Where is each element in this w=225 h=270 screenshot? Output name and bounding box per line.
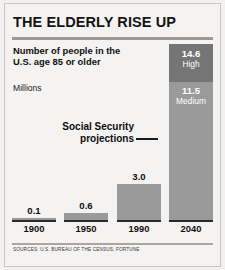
bar-1950: [64, 213, 108, 220]
x-axis: 1900 1950 1990 2040: [12, 220, 213, 242]
chart-title: THE ELDERLY RISE UP: [13, 14, 176, 30]
bar-value-1990: 3.0: [117, 171, 161, 182]
x-tick-rule-1900: [12, 220, 56, 222]
x-tick-rule-1950: [64, 220, 108, 222]
source-note: SOURCES: U.S. BUREAU OF THE CENSUS; FORT…: [13, 247, 140, 252]
x-tick-label-2040: 2040: [169, 223, 213, 234]
x-tick-rule-1990: [117, 220, 161, 222]
bar-value-2040-medium: 11.5: [169, 85, 213, 96]
bar-value-1900: 0.1: [12, 205, 56, 216]
x-tick-label-1900: 1900: [12, 223, 56, 234]
bar-2040: 14.6 High 11.5 Medium: [169, 44, 213, 220]
bar-segment-1950: [64, 213, 108, 220]
title-divider: [12, 37, 213, 40]
bar-label-2040-medium: 11.5 Medium: [169, 85, 213, 106]
bar-value-1950: 0.6: [64, 200, 108, 211]
bar-series-name-high: High: [169, 59, 213, 69]
chart-figure: THE ELDERLY RISE UP Number of people in …: [0, 0, 225, 270]
x-tick-1950: 1950: [64, 220, 108, 234]
x-tick-1900: 1900: [12, 220, 56, 234]
x-tick-1990: 1990: [117, 220, 161, 234]
x-tick-label-1990: 1990: [117, 223, 161, 234]
bar-segment-2040-high: 14.6 High: [169, 44, 213, 82]
footer-divider: [12, 243, 213, 245]
bar-segment-2040-medium: 11.5 Medium: [169, 82, 213, 220]
x-tick-label-1950: 1950: [64, 223, 108, 234]
x-tick-2040: 2040: [169, 220, 213, 234]
bar-segment-1990: [117, 184, 161, 220]
x-tick-rule-2040: [169, 220, 213, 222]
bar-value-2040-high: 14.6: [169, 48, 213, 59]
bar-label-2040-high: 14.6 High: [169, 48, 213, 69]
bar-series-name-medium: Medium: [169, 96, 213, 106]
bar-1990: [117, 184, 161, 220]
plot-area: 0.1 0.6 3.0 14.6 High: [12, 44, 213, 220]
